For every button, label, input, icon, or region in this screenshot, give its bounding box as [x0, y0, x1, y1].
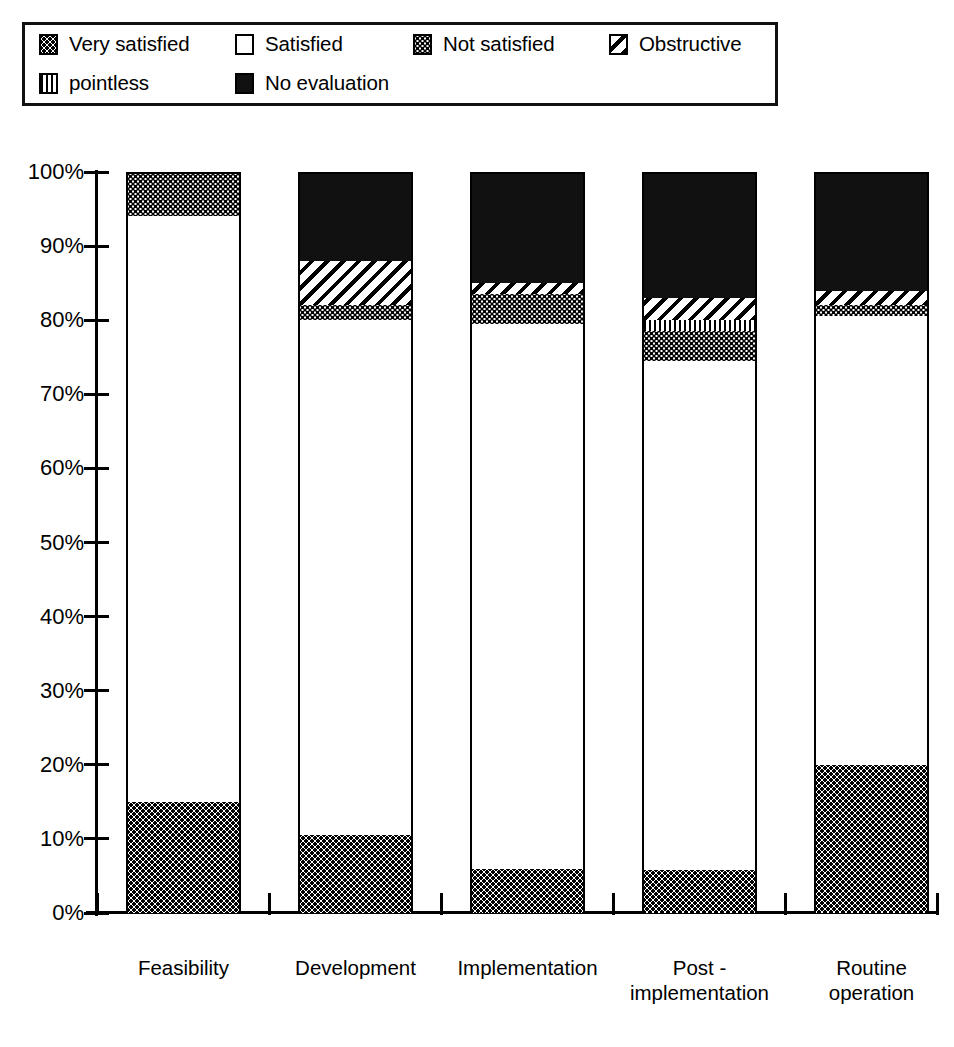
- x-axis-category-label: Routine operation: [772, 955, 954, 1005]
- bar-segment[interactable]: [644, 298, 755, 320]
- bar-segment[interactable]: [644, 331, 755, 361]
- y-axis-tick-label: 80%: [8, 309, 84, 331]
- y-axis-tick-label: 40%: [8, 606, 84, 628]
- bar-segment[interactable]: [300, 835, 411, 913]
- bar-segment[interactable]: [644, 870, 755, 913]
- bar-segment[interactable]: [644, 172, 755, 298]
- y-axis-tick-label: 30%: [8, 680, 84, 702]
- bar-segment[interactable]: [472, 294, 583, 324]
- bar-column[interactable]: [470, 172, 585, 913]
- bar-segment[interactable]: [300, 305, 411, 320]
- bar-segment[interactable]: [644, 361, 755, 870]
- bar-segment[interactable]: [472, 283, 583, 294]
- bar-segment[interactable]: [472, 869, 583, 913]
- y-axis-tick-label: 60%: [8, 457, 84, 479]
- x-axis-category-label: Implementation: [428, 955, 628, 980]
- x-axis-category-label: Post - implementation: [600, 955, 800, 1005]
- bar-segment[interactable]: [300, 172, 411, 261]
- bar-segment[interactable]: [128, 172, 239, 216]
- bar-column[interactable]: [126, 172, 241, 913]
- y-axis-tick-label: 50%: [8, 532, 84, 554]
- bar-column[interactable]: [814, 172, 929, 913]
- bar-segment[interactable]: [128, 216, 239, 801]
- bar-segment[interactable]: [644, 320, 755, 331]
- x-axis-category-label: Development: [256, 955, 456, 980]
- stacked-bar-chart: 100%90%80%70%60%50%40%30%20%10%0% Feasib…: [0, 0, 954, 1047]
- y-axis-tick-label: 0%: [8, 902, 84, 924]
- bar-segment[interactable]: [472, 172, 583, 283]
- bar-segment[interactable]: [300, 261, 411, 305]
- y-axis-tick-label: 100%: [8, 161, 84, 183]
- bar-segment[interactable]: [816, 291, 927, 306]
- x-axis-category-label: Feasibility: [84, 955, 284, 980]
- bar-segment[interactable]: [816, 305, 927, 316]
- y-axis-tick-label: 70%: [8, 383, 84, 405]
- y-axis-tick-label: 90%: [8, 235, 84, 257]
- bar-segment[interactable]: [816, 765, 927, 913]
- bar-segment[interactable]: [300, 320, 411, 835]
- y-axis-tick-label: 20%: [8, 754, 84, 776]
- y-axis-tick-label: 10%: [8, 828, 84, 850]
- bar-column[interactable]: [642, 172, 757, 913]
- bar-segment[interactable]: [128, 802, 239, 913]
- bar-segment[interactable]: [816, 172, 927, 291]
- bar-segment[interactable]: [816, 316, 927, 764]
- bar-column[interactable]: [298, 172, 413, 913]
- bar-segment[interactable]: [472, 324, 583, 869]
- plot-area: [98, 172, 938, 913]
